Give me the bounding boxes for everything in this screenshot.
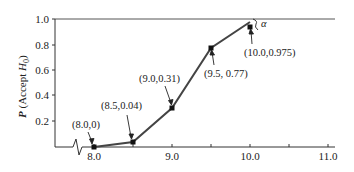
annotation-arrows bbox=[88, 29, 254, 144]
chart-canvas: 0.2 0.4 0.6 0.8 1.0 P (Accept H0) 8.0 9.… bbox=[0, 0, 354, 172]
x-tick-10-0: 10.0 bbox=[240, 150, 260, 162]
x-tick-labels: 8.0 9.0 10.0 11.0 bbox=[87, 150, 338, 162]
annotation-9-0: (9.0,0.31) bbox=[139, 73, 181, 85]
annotation-8-0: (8.0,0) bbox=[72, 119, 100, 131]
y-tick-0-6: 0.6 bbox=[35, 64, 49, 76]
y-tick-0-8: 0.8 bbox=[35, 39, 49, 51]
data-markers bbox=[92, 25, 253, 150]
x-tick-11-0: 11.0 bbox=[319, 150, 338, 162]
annotation-9-5: (9.5, 0.77) bbox=[204, 68, 248, 80]
y-tick-0-4: 0.4 bbox=[35, 89, 49, 101]
marker-9-5 bbox=[209, 46, 214, 51]
y-tick-labels: 0.2 0.4 0.6 0.8 1.0 bbox=[35, 13, 49, 127]
marker-8-5 bbox=[131, 140, 136, 145]
y-axis-label: P (Accept H0) bbox=[16, 55, 31, 118]
y-tick-0-2: 0.2 bbox=[35, 115, 49, 127]
alpha-brace-icon bbox=[253, 19, 258, 30]
alpha-label: α bbox=[261, 18, 267, 29]
marker-9-0 bbox=[170, 106, 175, 111]
data-series-line bbox=[94, 22, 250, 147]
marker-10-0 bbox=[248, 25, 253, 30]
annotation-8-5: (8.5,0.04) bbox=[101, 100, 143, 112]
annotation-10-0: (10.0,0.975) bbox=[244, 47, 296, 59]
y-tick-1-0: 1.0 bbox=[35, 13, 49, 25]
marker-8-0 bbox=[92, 145, 97, 150]
x-tick-9-0: 9.0 bbox=[165, 150, 179, 162]
x-tick-8-0: 8.0 bbox=[87, 150, 101, 162]
